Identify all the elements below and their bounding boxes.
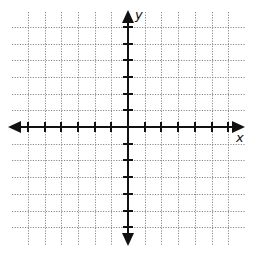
coordinate-plane: x y xyxy=(0,0,253,256)
axes xyxy=(8,10,245,246)
arrow-up-icon xyxy=(122,10,134,23)
x-axis-label: x xyxy=(235,130,244,145)
arrow-left-icon xyxy=(8,121,21,133)
y-axis-label: y xyxy=(134,7,143,22)
arrow-down-icon xyxy=(122,233,134,246)
